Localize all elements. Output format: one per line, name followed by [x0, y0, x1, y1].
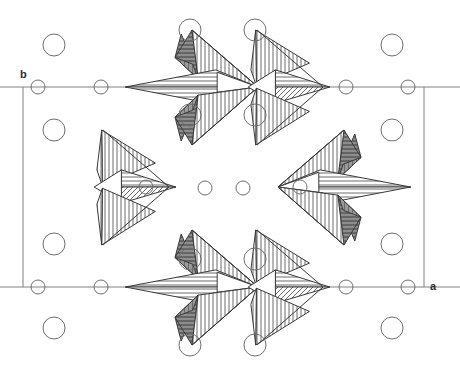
atom-large [179, 19, 201, 41]
atom-large [43, 317, 65, 339]
atom-small [293, 180, 307, 194]
atom-large [244, 104, 266, 126]
atom-large [43, 119, 65, 141]
atom-large [179, 248, 201, 270]
upper-face-b [97, 130, 103, 186]
atom-small [236, 181, 250, 195]
atom-large [381, 119, 403, 141]
atom-large [43, 233, 65, 255]
atom-large [244, 334, 266, 356]
atom-small [339, 280, 353, 294]
polyhedron-cluster-bottom-right [248, 230, 330, 345]
atom-small [401, 80, 415, 94]
atom-large [244, 19, 266, 41]
lower-face-b [97, 188, 103, 245]
atom-small [31, 280, 45, 294]
atom-small [94, 80, 108, 94]
polyhedron-cluster-bottom-left [125, 230, 258, 345]
atom-large [244, 248, 266, 270]
axis-label-a: a [430, 280, 437, 292]
atom-small [94, 280, 108, 294]
atom-large [381, 317, 403, 339]
atom-small [139, 180, 153, 194]
atom-large [179, 104, 201, 126]
atom-small [31, 80, 45, 94]
atom-small [401, 280, 415, 294]
atom-large [381, 34, 403, 56]
polyhedron-cluster-top-right [248, 30, 330, 145]
atom-large [381, 233, 403, 255]
atom-small [339, 80, 353, 94]
atom-large [179, 334, 201, 356]
structure-figure: b a [0, 0, 460, 373]
polyhedron-cluster-mid-left [94, 130, 176, 245]
structure-canvas: b a [0, 0, 460, 373]
polyhedron-cluster-top-left [125, 30, 258, 145]
atom-large [43, 34, 65, 56]
atom-small [198, 181, 212, 195]
axis-label-b: b [20, 68, 27, 80]
